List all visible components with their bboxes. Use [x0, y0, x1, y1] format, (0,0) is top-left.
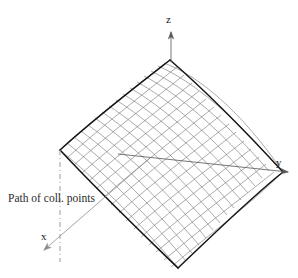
curved-mesh-surface [60, 60, 283, 268]
y-axis-label: y [276, 157, 282, 168]
x-axis-label: x [41, 231, 47, 242]
z-axis-label: z [166, 14, 171, 25]
surface-plot-figure: z y x Path of coll. points [0, 0, 298, 278]
path-of-collocation-points-label: Path of coll. points [8, 193, 95, 205]
